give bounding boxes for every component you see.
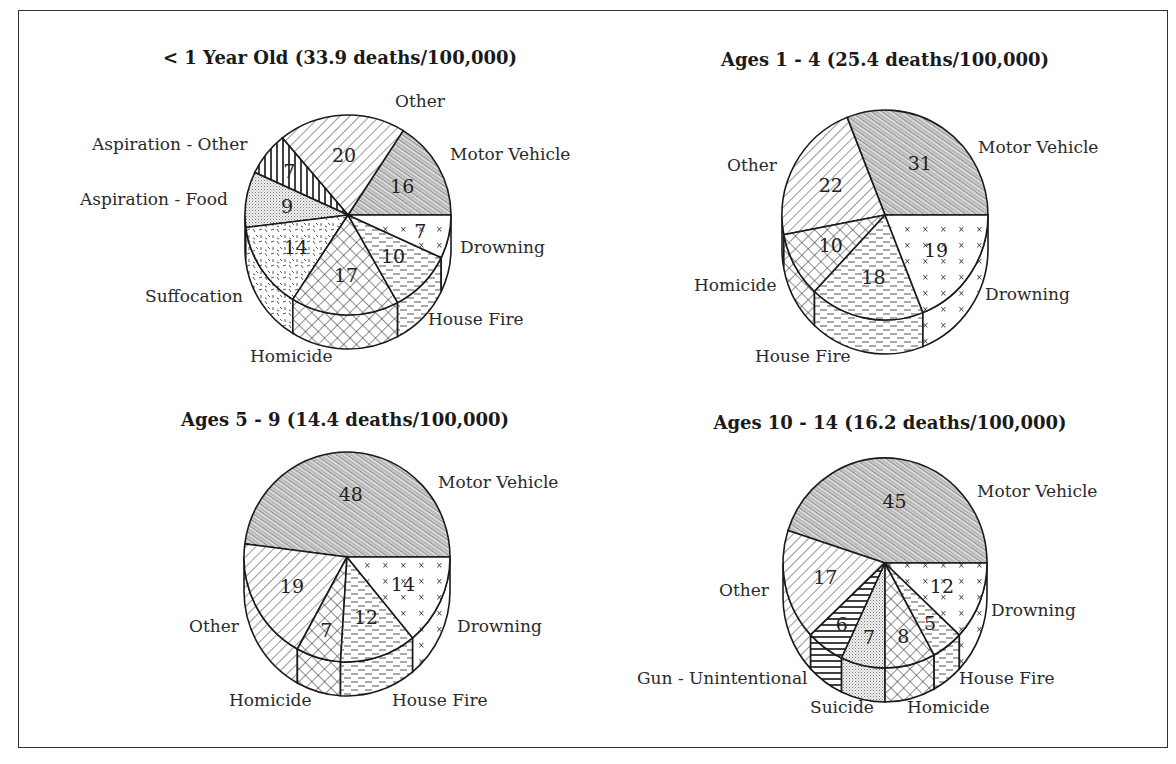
slice-value: 9 [281,195,293,217]
slice-value: 7 [414,220,426,242]
chart-title: < 1 Year Old (33.9 deaths/100,000) [163,47,517,68]
slice-label: Drowning [460,237,545,257]
slice-label: Other [395,91,446,111]
slice-value: 20 [332,144,356,166]
chart-title: Ages 1 - 4 (25.4 deaths/100,000) [720,49,1049,70]
slice-label: Motor Vehicle [977,481,1097,501]
slice-value: 48 [339,483,363,505]
slice-label: House Fire [428,309,524,329]
slice-label: Suicide [810,697,874,717]
pie-chart-1: < 1 Year Old (33.9 deaths/100,000)162079… [79,47,570,366]
slice-label: Other [727,155,778,175]
pie-chart-3: Ages 5 - 9 (14.4 deaths/100,000)48197121… [180,409,558,710]
slice-label: Motor Vehicle [438,472,558,492]
slice-label: Aspiration - Other [91,134,248,154]
slice-value: 10 [381,245,405,267]
slice-label: Homicide [907,697,990,717]
slice-value: 12 [930,575,954,597]
slice-value: 14 [391,573,415,595]
slice-value: 7 [863,626,875,648]
slice-value: 10 [819,234,843,256]
slice-label: Homicide [694,275,777,295]
slice-label: House Fire [392,690,488,710]
slice-value: 45 [882,490,906,512]
pie-chart-4: Ages 10 - 14 (16.2 deaths/100,000)451767… [637,412,1097,717]
slice-label: House Fire [959,668,1055,688]
chart-title: Ages 10 - 14 (16.2 deaths/100,000) [712,412,1066,433]
slice-label: Other [189,616,240,636]
slice-value: 18 [861,266,885,288]
pie-charts-figure: × < 1 Year Old (33.9 deaths/100,000)1620… [0,0,1176,764]
slice-value: 14 [284,236,308,258]
slice-label: Homicide [229,690,312,710]
slice-value: 7 [283,160,295,182]
slice-value: 7 [320,619,332,641]
slice-label: Motor Vehicle [450,144,570,164]
slice-label: Other [719,580,770,600]
slice-label: Aspiration - Food [79,189,228,209]
slice-value: 19 [924,239,948,261]
slice-value: 17 [813,566,837,588]
slice-value: 8 [897,625,909,647]
slice-value: 22 [819,174,843,196]
slice-value: 16 [390,175,414,197]
slice-label: Drowning [991,600,1076,620]
slice-label: Drowning [457,616,542,636]
pie-chart-2: Ages 1 - 4 (25.4 deaths/100,000)31221018… [694,49,1098,366]
slice-label: Motor Vehicle [978,137,1098,157]
slice-value: 31 [908,152,932,174]
slice-value: 12 [354,606,378,628]
slice-label: House Fire [755,346,851,366]
slice-value: 19 [280,575,304,597]
slice-value: 5 [924,612,936,634]
chart-title: Ages 5 - 9 (14.4 deaths/100,000) [180,409,509,430]
slice-label: Drowning [985,284,1070,304]
slice-label: Homicide [250,346,333,366]
slice-label: Gun - Unintentional [637,668,808,688]
slice-label: Suffocation [145,286,243,306]
slice-value: 6 [836,613,848,635]
slice-value: 17 [334,264,358,286]
